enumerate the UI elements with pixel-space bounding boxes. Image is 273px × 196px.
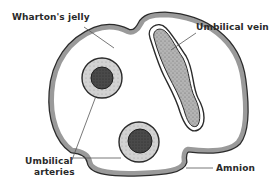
label-amnion: Amnion bbox=[216, 163, 255, 174]
umbilical-artery-lower bbox=[119, 122, 159, 162]
label-umbilical-vein: Umbilical vein bbox=[196, 22, 269, 33]
umbilical-artery-upper bbox=[82, 58, 122, 98]
label-umbilical-arteries-line2: arteries bbox=[34, 167, 75, 178]
label-whartons-jelly: Wharton's jelly bbox=[12, 12, 90, 23]
label-umbilical-arteries-line1: Umbilical bbox=[25, 156, 73, 167]
